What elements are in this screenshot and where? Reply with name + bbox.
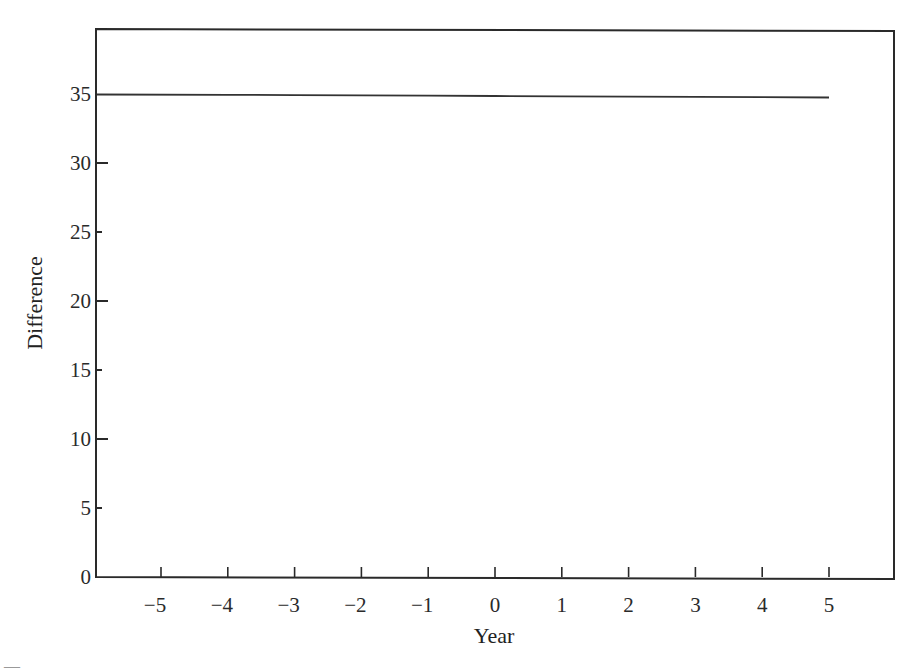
x-tick-label: 2 (623, 593, 634, 617)
y-tick-label: 25 (70, 220, 91, 244)
data-series (97, 95, 829, 98)
y-tick-label: 35 (70, 82, 91, 106)
series-line (97, 95, 829, 98)
clipped-caption: — (0, 662, 916, 668)
chart-svg: 05101520253035 −5−4−3−2−1012345 Year Dif… (0, 0, 916, 668)
x-tick-label: −4 (211, 593, 234, 617)
x-tick-label: −3 (277, 593, 299, 617)
y-tick-label: 0 (81, 565, 92, 589)
x-tick-label: −2 (344, 593, 366, 617)
y-axis-title: Difference (22, 256, 47, 350)
x-axis-ticks: −5−4−3−2−1012345 (144, 567, 834, 617)
y-tick-label: 20 (70, 289, 91, 313)
x-tick-label: 3 (690, 593, 701, 617)
x-axis-title: Year (474, 623, 515, 648)
x-tick-label: 0 (490, 593, 501, 617)
y-tick-label: 15 (70, 358, 91, 382)
x-tick-label: −5 (144, 593, 166, 617)
x-tick-label: 5 (824, 593, 835, 617)
x-tick-label: 1 (557, 593, 568, 617)
y-axis-ticks: 05101520253035 (70, 82, 108, 589)
y-tick-label: 10 (70, 427, 91, 451)
plot-frame (96, 29, 894, 579)
x-tick-label: −1 (411, 593, 433, 617)
y-tick-label: 30 (70, 151, 91, 175)
x-tick-label: 4 (757, 593, 768, 617)
y-tick-label: 5 (81, 496, 92, 520)
